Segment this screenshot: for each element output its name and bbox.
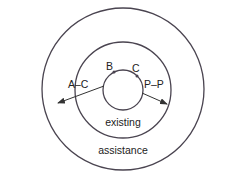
point-c-label: C [132, 62, 140, 74]
middle-circle-label: existing [105, 116, 141, 128]
concentric-diagram: B C A–C P–P existing assistance [0, 0, 227, 191]
point-b-label: B [106, 60, 113, 72]
point-c-dot [136, 75, 139, 78]
right-arrow [142, 93, 167, 104]
right-arrow-label: P–P [144, 78, 164, 90]
left-arrow-label: A–C [68, 78, 89, 90]
outer-circle-label: assistance [98, 144, 148, 156]
